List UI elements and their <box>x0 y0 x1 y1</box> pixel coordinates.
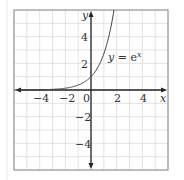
origin-label: 0 <box>83 92 90 105</box>
x-tick-label: −2 <box>59 92 75 105</box>
y-tick-label: −2 <box>75 111 91 124</box>
x-axis-label: x <box>160 92 167 105</box>
exponential-chart: x y 0 −4 −2 2 4 4 2 −2 −4 y = ex <box>0 0 184 180</box>
y-tick-label: 4 <box>81 31 88 44</box>
x-tick-label: 4 <box>140 92 147 105</box>
x-tick-label: 2 <box>114 92 121 105</box>
y-axis-up-arrow-icon <box>89 11 94 17</box>
y-tick-label: 2 <box>81 58 88 71</box>
x-tick-label: −4 <box>33 92 49 105</box>
y-axis-down-arrow-icon <box>89 163 94 169</box>
y-tick-label: −4 <box>75 138 91 151</box>
curve-label: y = ex <box>107 50 142 64</box>
y-axis-label: y <box>81 9 89 22</box>
